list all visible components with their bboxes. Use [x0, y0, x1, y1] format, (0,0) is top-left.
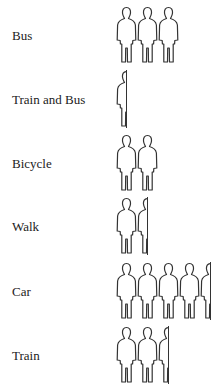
person-icon [137, 6, 158, 64]
person-icon [158, 262, 179, 320]
category-label: Walk [12, 219, 39, 235]
chart-row: Train [0, 326, 224, 386]
person-icon [158, 326, 169, 384]
person-icon [137, 326, 158, 384]
person-icon [116, 262, 137, 320]
icon-group [116, 326, 169, 386]
category-label: Bus [12, 28, 32, 44]
person-icon [116, 197, 137, 255]
icon-group [116, 6, 179, 66]
icon-group [116, 262, 211, 322]
category-label: Train [12, 348, 40, 364]
person-icon [137, 6, 158, 64]
person-icon [137, 134, 158, 192]
person-icon [137, 134, 158, 192]
person-icon [116, 326, 137, 384]
person-icon [116, 6, 137, 64]
person-icon [179, 262, 200, 320]
person-icon [116, 134, 137, 192]
person-icon [137, 197, 148, 255]
person-icon [137, 262, 158, 320]
person-icon [137, 262, 158, 320]
person-icon [116, 134, 137, 192]
chart-row: Car [0, 262, 224, 322]
chart-row: Bicycle [0, 134, 224, 194]
person-icon [200, 262, 211, 320]
category-label: Car [12, 284, 31, 300]
partial-person-icon [116, 70, 127, 128]
person-icon [116, 6, 137, 64]
icon-group [116, 197, 148, 257]
person-icon [179, 262, 200, 320]
person-icon [158, 6, 179, 64]
person-icon [158, 262, 179, 320]
category-label: Train and Bus [12, 92, 85, 108]
chart-row: Walk [0, 197, 224, 257]
icon-group [116, 134, 158, 194]
partial-person-icon [158, 326, 169, 384]
category-label: Bicycle [12, 156, 52, 172]
partial-person-icon [137, 197, 148, 255]
person-icon [116, 197, 137, 255]
icon-group [116, 70, 127, 130]
person-icon [116, 70, 127, 128]
person-icon [137, 326, 158, 384]
person-icon [116, 262, 137, 320]
person-icon [158, 6, 179, 64]
person-icon [116, 326, 137, 384]
partial-person-icon [200, 262, 211, 320]
chart-row: Train and Bus [0, 70, 224, 130]
chart-row: Bus [0, 6, 224, 66]
